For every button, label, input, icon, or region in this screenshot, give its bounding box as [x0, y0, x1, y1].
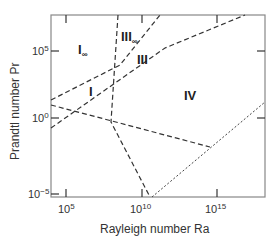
y-tick-label-1e-5: 10−5 — [28, 187, 50, 200]
x-tick-label-1e15: 1015 — [205, 202, 227, 215]
x-tick-label-1e10: 1010 — [130, 202, 152, 215]
region-iv: IV — [184, 88, 197, 103]
region-labels: I∞ I III∞ III IV — [78, 29, 197, 103]
boundary-iv-dotted — [152, 102, 265, 197]
region-i: I — [89, 84, 93, 99]
x-axis-title: Rayleigh number Ra — [100, 222, 210, 236]
y-ticks — [51, 51, 265, 194]
boundary-iii — [51, 15, 245, 128]
region-i-inf: I∞ — [78, 42, 88, 59]
y-axis-title: Prandtl number Pr — [8, 63, 22, 160]
region-iii-inf: III∞ — [121, 29, 138, 46]
region-iii: III — [137, 52, 148, 67]
x-ticks — [66, 15, 217, 197]
phase-diagram: 105 1010 1015 105 100 10−5 Rayleigh numb… — [0, 0, 277, 242]
y-tick-label-1e0: 100 — [32, 111, 49, 124]
y-tick-label-1e5: 105 — [32, 44, 49, 57]
boundary-lower — [51, 105, 210, 147]
plot-frame — [51, 15, 265, 197]
x-tick-label-1e5: 105 — [58, 202, 75, 215]
